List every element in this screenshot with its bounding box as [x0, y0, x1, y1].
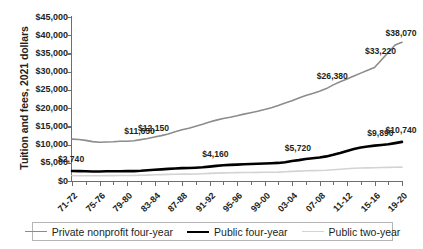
x-axis-tick	[265, 182, 266, 186]
y-axis-tick	[67, 108, 71, 109]
y-axis-tick	[67, 163, 71, 164]
legend-label: Public four-year	[214, 226, 288, 238]
x-axis-tick	[100, 182, 101, 186]
tuition-line-chart: Tuition and fees, 2021 dollars $45,000$4…	[0, 0, 423, 249]
y-axis-tick	[67, 90, 71, 91]
x-axis-tick	[127, 182, 128, 186]
x-axis-tick	[141, 182, 142, 185]
x-axis-tick	[168, 182, 169, 185]
data-point-label: $4,160	[202, 150, 228, 159]
legend-item-private-nonprofit-four-year[interactable]: Private nonprofit four-year	[18, 226, 180, 238]
data-point-label: $2,740	[58, 155, 84, 164]
y-axis-tick	[67, 145, 71, 146]
legend-item-public-two-year[interactable]: Public two-year	[295, 226, 408, 238]
y-axis-tick	[67, 53, 71, 54]
x-axis-tick	[361, 182, 362, 185]
x-axis-tick	[72, 182, 73, 186]
x-axis-tick	[402, 182, 403, 186]
data-point-label: $5,720	[285, 144, 311, 153]
x-axis-tick	[251, 182, 252, 185]
y-axis-tick	[67, 181, 71, 182]
legend-item-public-four-year[interactable]: Public four-year	[180, 226, 295, 238]
data-point-label: $33,220	[365, 47, 396, 56]
x-axis-tick	[306, 182, 307, 185]
x-axis-tick	[237, 182, 238, 186]
x-axis-tick	[292, 182, 293, 186]
x-axis-tick	[155, 182, 156, 186]
data-point-label: $26,380	[317, 72, 348, 81]
data-point-label: $38,070	[386, 29, 417, 38]
legend-swatch-line-icon	[25, 231, 47, 232]
x-axis-tick	[86, 182, 87, 185]
data-point-label: $10,740	[386, 126, 417, 135]
legend-label: Private nonprofit four-year	[52, 226, 173, 238]
y-axis-tick	[67, 72, 71, 73]
x-axis-tick-labels: 71-7275-7679-8083-8487-8891-9295-9699-00…	[0, 0, 423, 249]
x-axis-tick	[196, 182, 197, 185]
x-axis-tick	[223, 182, 224, 185]
x-axis-tick	[333, 182, 334, 185]
x-axis-tick	[182, 182, 183, 186]
chart-legend: Private nonprofit four-year Public four-…	[32, 222, 393, 241]
legend-swatch-line-icon	[187, 231, 209, 233]
x-axis-tick	[320, 182, 321, 186]
legend-label: Public two-year	[329, 226, 401, 238]
y-axis-tick	[67, 17, 71, 18]
x-axis-tick	[278, 182, 279, 185]
y-axis-tick	[67, 35, 71, 36]
x-axis-tick	[210, 182, 211, 186]
x-axis-tick	[347, 182, 348, 186]
legend-swatch-line-icon	[302, 231, 324, 232]
x-axis-tick	[113, 182, 114, 185]
data-point-label: $12,150	[138, 124, 169, 133]
y-axis-tick	[67, 126, 71, 127]
x-axis-tick	[375, 182, 376, 186]
x-axis-tick	[388, 182, 389, 185]
